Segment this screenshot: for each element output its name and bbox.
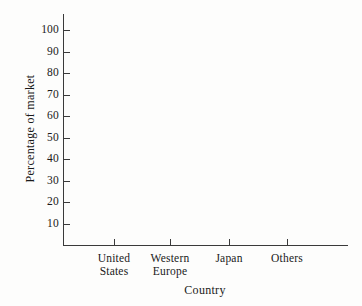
plot-area xyxy=(64,14,348,245)
y-tick-mark xyxy=(64,181,70,182)
y-tick-mark xyxy=(64,95,70,96)
x-axis-title: Country xyxy=(0,283,362,298)
y-tick-mark xyxy=(64,30,70,31)
y-tick-label: 10 xyxy=(26,218,59,229)
x-tick-mark xyxy=(170,239,171,245)
x-tick-label-line1: Japan xyxy=(215,252,242,264)
y-tick-label: 100 xyxy=(26,24,59,35)
y-tick-mark xyxy=(64,224,70,225)
y-tick-mark xyxy=(64,73,70,74)
y-tick-label-text: 10 xyxy=(31,218,59,229)
x-axis-line xyxy=(63,245,348,246)
x-tick-mark xyxy=(114,239,115,245)
x-tick-label: Others xyxy=(242,252,332,265)
chart-figure: 102030405060708090100 UnitedStatesWester… xyxy=(0,0,362,306)
x-tick-label-line2: Europe xyxy=(125,265,215,278)
y-tick-mark xyxy=(64,159,70,160)
x-tick-label-line1: Others xyxy=(271,252,303,264)
y-tick-mark xyxy=(64,202,70,203)
y-tick-label-text: 100 xyxy=(31,24,59,35)
y-tick-mark xyxy=(64,52,70,53)
y-tick-mark xyxy=(64,138,70,139)
y-axis-title: Percentage of market xyxy=(23,39,38,219)
y-tick-mark xyxy=(64,116,70,117)
x-tick-mark xyxy=(229,239,230,245)
y-axis-line xyxy=(63,14,64,246)
x-tick-mark xyxy=(287,239,288,245)
